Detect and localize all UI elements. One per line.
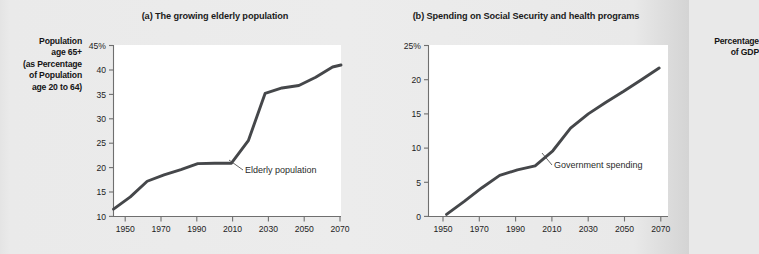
x-tick-label: 1950 (433, 224, 452, 234)
chart-a-x-ticks (125, 217, 340, 222)
chart-a-plot: 45% 40 35 30 25 20 15 10 1950 (0, 0, 345, 254)
y-tick-label: 15 (96, 187, 106, 197)
y-tick-label: 25 (96, 138, 106, 148)
chart-b-y-axis-label: Percentage of GDP (685, 36, 759, 59)
y-axis-label-line: of GDP (685, 47, 759, 58)
y-tick-label: 30 (96, 114, 106, 124)
chart-panel-a: (a) The growing elderly population Popul… (0, 0, 345, 254)
x-tick-label: 2030 (579, 224, 598, 234)
x-tick-label: 1970 (470, 224, 489, 234)
chart-b-y-ticks (424, 46, 429, 217)
x-tick-label: 2050 (295, 224, 314, 234)
x-tick-label: 2010 (542, 224, 561, 234)
x-tick-label: 2050 (615, 224, 634, 234)
x-tick-label: 1950 (116, 224, 135, 234)
y-tick-label: 20 (411, 75, 421, 85)
chart-b-plot: 25% 20 15 10 5 0 1950 1970 1990 2010 (345, 0, 689, 254)
chart-panel-b: (b) Spending on Social Security and heal… (345, 0, 689, 254)
chart-a-plot-background (113, 45, 341, 216)
y-tick-label: 35 (96, 90, 106, 100)
chart-b-x-tick-labels: 1950 1970 1990 2010 2030 2050 2070 (433, 224, 670, 234)
y-tick-label: 0 (416, 212, 421, 222)
chart-b-plot-background (428, 45, 668, 216)
x-tick-label: 2030 (259, 224, 278, 234)
chart-a-annotation-label: Elderly population (245, 165, 317, 175)
y-tick-label: 15 (411, 109, 421, 119)
x-tick-label: 1970 (151, 224, 170, 234)
chart-a-x-tick-labels: 1950 1970 1990 2010 2030 2050 2070 (116, 224, 350, 234)
y-tick-label: 5 (416, 178, 421, 188)
x-tick-label: 2070 (651, 224, 670, 234)
x-tick-label: 1990 (187, 224, 206, 234)
y-tick-label: 40 (96, 65, 106, 75)
x-tick-label: 1990 (506, 224, 525, 234)
y-tick-label: 20 (96, 163, 106, 173)
chart-b-y-tick-labels: 25% 20 15 10 5 0 (404, 41, 422, 222)
x-tick-label: 2010 (223, 224, 242, 234)
y-tick-label: 45% (89, 41, 107, 51)
chart-b-x-ticks (443, 217, 661, 222)
chart-a-y-ticks (109, 46, 114, 217)
y-tick-label: 10 (411, 143, 421, 153)
y-tick-label: 25% (404, 41, 422, 51)
chart-a-y-tick-labels: 45% 40 35 30 25 20 15 10 (89, 41, 107, 222)
y-tick-label: 10 (96, 212, 106, 222)
chart-b-annotation-label: Government spending (554, 160, 643, 170)
y-axis-label-line: Percentage (685, 36, 759, 47)
